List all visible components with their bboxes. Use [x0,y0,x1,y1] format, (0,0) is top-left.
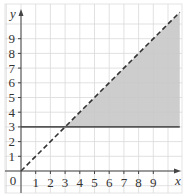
y-axis-arrow-icon [19,9,24,16]
y-tick-label: 1 [9,149,16,164]
x-tick-label: 8 [135,175,142,190]
y-tick-label: 2 [9,134,16,149]
x-tick-label: 7 [121,175,128,190]
y-tick-label: 8 [9,46,16,61]
x-tick-label: 2 [47,175,54,190]
y-tick-label: 3 [9,119,16,134]
origin-label: 0 [10,173,17,188]
x-tick-label: 5 [91,175,98,190]
y-tick-label: 5 [9,90,16,105]
x-tick-label: 4 [77,175,84,190]
y-tick-label: 7 [9,61,16,76]
x-tick-label: 1 [32,175,39,190]
x-tick-label: 6 [106,175,113,190]
x-axis-label: x [174,173,181,188]
y-tick-label: 6 [9,75,16,90]
inequality-graph: 1234567891234567890xy [0,0,185,196]
x-tick-label: 3 [62,175,69,190]
y-tick-label: 4 [9,105,16,120]
y-tick-label: 9 [9,31,16,46]
x-tick-label: 9 [150,175,157,190]
y-axis-label: y [8,6,16,21]
